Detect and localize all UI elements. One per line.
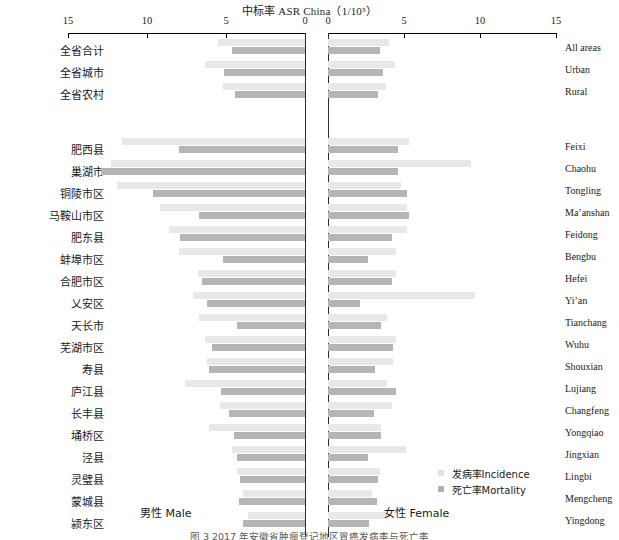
bar-female-mortality-shouxian: [328, 366, 375, 373]
chart-row: 肥西县Feixi: [0, 137, 619, 159]
bar-female-incidence-bengbu: [328, 248, 396, 255]
chart-row: 芜湖市区Wuhu: [0, 335, 619, 357]
bar-male-incidence-jingxian: [232, 446, 305, 453]
bar-female-mortality-lingbi: [328, 476, 378, 483]
bar-female-mortality-mengcheng: [328, 498, 377, 505]
row-label-en-jingxian: Jingxian: [565, 449, 619, 460]
bar-male-mortality-allareas: [232, 47, 305, 54]
tick-label-male-15: 15: [63, 15, 74, 26]
figure-caption: 图 3 2017 年安徽省肿瘤登记地区胃癌发病率与死亡率: [0, 529, 619, 540]
legend-label-incidence: 发病率Incidence: [452, 466, 530, 481]
tick-label-female-0: 0: [325, 15, 330, 26]
bar-male-mortality-tianchang: [237, 322, 305, 329]
row-label-en-mengcheng: Mengcheng: [565, 493, 619, 504]
row-label-cn-bengbu: 蚌埠市区: [0, 251, 104, 267]
chart-row: 全省城市Urban: [0, 60, 619, 82]
bar-female-mortality-yingdong: [328, 520, 369, 527]
bar-male-mortality-yongqiao: [234, 432, 305, 439]
bar-female-mortality-hefei: [328, 278, 392, 285]
bar-male-incidence-mengcheng: [243, 490, 305, 497]
row-label-en-tongling: Tongling: [565, 185, 619, 196]
row-label-cn-changfeng: 长丰县: [0, 405, 104, 421]
chart-legend: 发病率Incidence 死亡率Mortality: [438, 466, 530, 498]
row-label-cn-wuhu: 芜湖市区: [0, 339, 104, 355]
bar-male-mortality-rural: [235, 91, 305, 98]
bar-female-mortality-chaohu: [328, 168, 398, 175]
row-label-en-shouxian: Shouxian: [565, 361, 619, 372]
bar-female-incidence-shouxian: [328, 358, 393, 365]
row-label-en-feidong: Feidong: [565, 229, 619, 240]
bar-female-incidence-changfeng: [328, 402, 392, 409]
bar-female-mortality-changfeng: [328, 410, 374, 417]
bar-male-incidence-urban: [205, 61, 305, 68]
bar-male-incidence-lujiang: [185, 380, 305, 387]
bar-male-incidence-hefei: [198, 270, 305, 277]
bar-female-incidence-urban: [328, 61, 395, 68]
row-label-cn-tongling: 铜陵市区: [0, 185, 104, 201]
bar-female-mortality-tongling: [328, 190, 407, 197]
bar-male-mortality-lujiang: [221, 388, 305, 395]
bar-male-mortality-maanshan: [199, 212, 305, 219]
bar-male-incidence-yingdong: [248, 512, 305, 519]
bar-female-mortality-rural: [328, 91, 378, 98]
legend-swatch-mortality-icon: [438, 486, 444, 492]
row-label-en-yingdong: Yingdong: [565, 515, 619, 526]
legend-item-mortality: 死亡率Mortality: [438, 482, 530, 498]
chart-row: 庐江县Lujiang: [0, 379, 619, 401]
bar-female-incidence-feidong: [328, 226, 407, 233]
chart-row: 天长市Tianchang: [0, 313, 619, 335]
chart-row: 巢湖市Chaohu: [0, 159, 619, 181]
bar-male-incidence-changfeng: [220, 402, 305, 409]
legend-item-incidence: 发病率Incidence: [438, 466, 530, 482]
chart-canvas: 中标率 ASR China（1/10⁵） 151050051015 全省合计Al…: [0, 0, 619, 540]
bar-male-incidence-feixi: [122, 138, 305, 145]
row-label-en-maanshan: Ma’anshan: [565, 207, 619, 218]
chart-axis-title: 中标率 ASR China（1/10⁵）: [0, 2, 619, 18]
row-label-en-allareas: All areas: [565, 42, 619, 53]
bar-male-incidence-wuhu: [205, 336, 305, 343]
bar-male-incidence-yian: [193, 292, 305, 299]
bar-male-mortality-hefei: [202, 278, 305, 285]
row-label-en-yongqiao: Yongqiao: [565, 427, 619, 438]
row-label-en-yian: Yi’an: [565, 295, 619, 306]
bar-male-mortality-chaohu: [101, 168, 305, 175]
bar-male-mortality-urban: [224, 69, 305, 76]
bar-male-incidence-yongqiao: [209, 424, 305, 431]
bar-female-mortality-urban: [328, 69, 383, 76]
bar-male-mortality-lingbi: [240, 476, 305, 483]
legend-label-mortality: 死亡率Mortality: [452, 482, 526, 497]
row-label-en-bengbu: Bengbu: [565, 251, 619, 262]
bar-female-incidence-yongqiao: [328, 424, 381, 431]
row-label-en-feixi: Feixi: [565, 141, 619, 152]
bar-female-incidence-hefei: [328, 270, 396, 277]
row-label-cn-tianchang: 天长市: [0, 317, 104, 333]
bar-female-mortality-feidong: [328, 234, 392, 241]
row-label-cn-lingbi: 灵璧县: [0, 471, 104, 487]
row-label-en-rural: Rural: [565, 86, 619, 97]
chart-row: 埇桥区Yongqiao: [0, 423, 619, 445]
chart-row: 蚌埠市区Bengbu: [0, 247, 619, 269]
bar-female-incidence-tianchang: [328, 314, 387, 321]
chart-row: 寿县Shouxian: [0, 357, 619, 379]
x-axis-line-male: [68, 33, 305, 34]
bar-male-mortality-shouxian: [209, 366, 305, 373]
bar-male-mortality-feixi: [179, 146, 305, 153]
tick-label-female-10: 10: [475, 15, 486, 26]
bar-male-incidence-feidong: [169, 226, 305, 233]
bar-female-incidence-maanshan: [328, 204, 407, 211]
bar-female-mortality-jingxian: [328, 454, 368, 461]
bar-male-mortality-feidong: [180, 234, 305, 241]
chart-row: 泾县Jingxian: [0, 445, 619, 467]
legend-swatch-incidence-icon: [438, 470, 444, 476]
row-label-cn-jingxian: 泾县: [0, 449, 104, 465]
row-label-en-lujiang: Lujiang: [565, 383, 619, 394]
bar-female-incidence-yian: [328, 292, 475, 299]
bar-male-mortality-bengbu: [223, 256, 305, 263]
bar-female-incidence-allareas: [328, 39, 389, 46]
bar-female-incidence-lujiang: [328, 380, 387, 387]
row-label-en-hefei: Hefei: [565, 273, 619, 284]
bar-male-incidence-allareas: [218, 39, 305, 46]
bar-female-mortality-tianchang: [328, 322, 381, 329]
bar-male-incidence-lingbi: [237, 468, 305, 475]
tick-label-female-15: 15: [551, 15, 562, 26]
